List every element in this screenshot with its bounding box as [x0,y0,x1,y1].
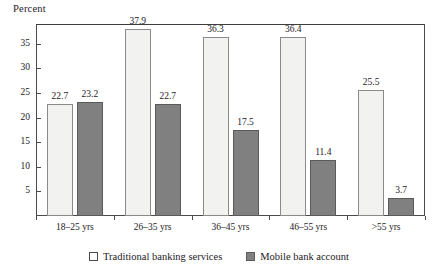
x-axis-category-label: >55 yrs [347,222,425,232]
bar [310,160,336,216]
x-axis-tick [36,216,37,220]
x-axis-category-label: 18–25 yrs [36,222,114,232]
y-axis-tick-label: 25 [6,87,30,97]
bar-value-label: 3.7 [384,185,418,195]
y-axis-tick-label: 5 [6,185,30,195]
x-axis-category-label: 26–35 yrs [114,222,192,232]
legend-item: Mobile bank account [246,251,349,262]
bar [233,130,259,216]
chart-legend: Traditional banking servicesMobile bank … [0,251,438,262]
y-axis-tick-label: 10 [6,161,30,171]
bar-value-label: 22.7 [151,91,185,101]
bar-value-label: 37.9 [121,16,155,26]
bar [388,198,414,216]
y-axis-tick-label: 15 [6,136,30,146]
x-axis-tick [425,216,426,220]
bar [47,104,73,216]
x-axis-tick [347,216,348,220]
legend-item-label: Mobile bank account [260,251,349,262]
x-axis-tick [114,216,115,220]
light-square-swatch [89,252,98,261]
x-axis-tick [192,216,193,220]
bar [125,29,151,216]
bar [280,37,306,216]
legend-item-label: Traditional banking services [103,251,222,262]
x-axis-category-label: 46–55 yrs [269,222,347,232]
bar-value-label: 36.3 [199,24,233,34]
bar [203,37,229,216]
bar [77,102,103,216]
x-axis-tick [269,216,270,220]
dark-square-swatch [246,252,255,261]
bar-value-label: 11.4 [306,147,340,157]
bar-chart: Percent 5101520253035 18–25 yrs26–35 yrs… [0,0,438,279]
y-axis-title: Percent [13,3,46,14]
y-axis-tick-label: 35 [6,38,30,48]
bar-value-label: 23.2 [73,89,107,99]
bar [155,104,181,216]
y-axis-tick-label: 20 [6,112,30,122]
bar-value-label: 17.5 [229,117,263,127]
bar-value-label: 25.5 [354,77,388,87]
y-axis-tick-label: 30 [6,62,30,72]
x-axis-category-label: 36–45 yrs [192,222,270,232]
bar-value-label: 36.4 [276,24,310,34]
bar-value-label: 22.7 [43,91,77,101]
bar [358,90,384,216]
legend-item: Traditional banking services [89,251,222,262]
